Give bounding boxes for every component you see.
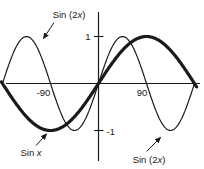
y-tick-label-minus1: -1 xyxy=(107,126,115,137)
label-text: Sin (2 xyxy=(133,154,158,165)
label-text: Sin (2 xyxy=(53,9,78,20)
x-tick-label-minus90: -90 xyxy=(37,87,51,98)
label-sinx-bottom: Sin x xyxy=(20,147,42,158)
sine-chart-canvas: 1 -1 -90 90 Sin (2x) Sin x Sin (2x) xyxy=(0,0,204,169)
label-text: Sin xyxy=(20,147,36,158)
y-tick-label-plus1: 1 xyxy=(85,31,90,42)
sine-curves-figure: 1 -1 -90 90 Sin (2x) Sin x Sin (2x) xyxy=(0,0,204,169)
x-tick-label-90: 90 xyxy=(137,87,148,98)
label-text: ) xyxy=(82,9,85,20)
figure-background xyxy=(0,0,204,169)
label-sin2x-top: Sin (2x) xyxy=(53,9,86,20)
label-sin2x-bottom: Sin (2x) xyxy=(133,154,166,165)
label-text: ) xyxy=(162,154,165,165)
